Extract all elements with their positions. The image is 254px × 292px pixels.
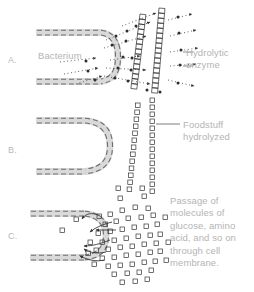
label-foodstuff-line2: hydrolyzed xyxy=(183,131,253,143)
figure-root: A. B. C. Bacterium Hydrolytic enzyme Foo… xyxy=(0,0,254,292)
panel-b-molecule-chain-right xyxy=(150,98,155,194)
panel-a-foodstuff-chain-right xyxy=(152,8,165,93)
panel-letter-c: C. xyxy=(8,231,18,241)
panel-c-molecules xyxy=(60,186,170,284)
panel-b-molecule-chain-left xyxy=(127,103,140,192)
label-hydrolytic-enzyme-line1: Hydrolytic xyxy=(186,47,252,59)
panel-letter-b: B. xyxy=(8,145,17,155)
panel-letter-a: A. xyxy=(8,55,17,65)
label-foodstuff-line1: Foodstuff xyxy=(183,119,253,131)
label-hydrolytic-enzyme: Hydrolytic enzyme xyxy=(186,47,252,72)
label-hydrolytic-enzyme-line2: enzyme xyxy=(186,59,252,71)
label-bacterium: Bacterium xyxy=(38,50,82,62)
panel-a-foodstuff-chain-left xyxy=(131,14,146,89)
label-passage-caption: Passage of molecules of glucose, amino a… xyxy=(170,195,254,269)
panel-b-membrane xyxy=(36,117,113,175)
label-foodstuff-hydrolyzed: Foodstuff hydrolyzed xyxy=(183,119,253,144)
